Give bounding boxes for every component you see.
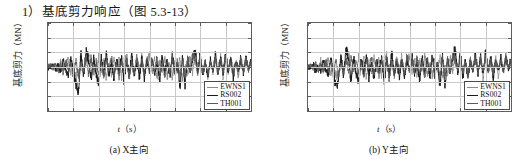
figure-b: 基底剪力（MN） EWNS1 RS002 TH001 <box>259 18 519 167</box>
x-tick-mark <box>460 23 461 26</box>
axes-a: EWNS1 RS002 TH001 0510152025303540−300−2… <box>47 22 252 112</box>
y-tick-mark <box>48 111 51 112</box>
x-tick-mark <box>359 108 360 111</box>
y-tick-mark <box>508 38 511 39</box>
x-tick-mark <box>200 23 201 26</box>
y-tick-mark <box>508 111 511 112</box>
x-axis-unit-a: （s） <box>120 124 142 134</box>
y-tick-mark <box>308 52 311 53</box>
x-tick-mark <box>410 108 411 111</box>
y-axis-label-b: 基底剪力（MN） <box>278 10 291 96</box>
y-tick-mark <box>508 52 511 53</box>
legend-swatch-ewns1 <box>207 87 218 88</box>
x-tick-mark <box>175 108 176 111</box>
gridline-horizontal <box>308 38 511 39</box>
figure-page: 1）基底剪力响应（图 5.3-13） 基底剪力（MN） EWNS1 RS002 <box>0 0 519 167</box>
x-tick-mark <box>175 23 176 26</box>
x-tick-mark <box>251 23 252 26</box>
y-tick-mark <box>308 111 311 112</box>
y-tick-mark <box>248 67 251 68</box>
caption-a: (a) X主向 <box>0 142 259 156</box>
x-tick-mark <box>511 23 512 26</box>
x-tick-mark <box>73 108 74 111</box>
gridline-horizontal <box>48 52 251 53</box>
y-tick-mark <box>248 52 251 53</box>
y-tick-mark <box>508 67 511 68</box>
y-tick-mark <box>48 38 51 39</box>
y-tick-mark <box>48 23 51 24</box>
legend-swatch-th001 <box>467 103 478 104</box>
legend-a: EWNS1 RS002 TH001 <box>204 81 250 110</box>
y-axis-label-a: 基底剪力（MN） <box>11 10 24 96</box>
y-tick-mark <box>308 23 311 24</box>
x-axis-label-b: t（s） <box>259 122 519 135</box>
y-tick-mark <box>308 96 311 97</box>
x-tick-mark <box>460 108 461 111</box>
x-tick-mark <box>251 108 252 111</box>
x-tick-mark <box>435 108 436 111</box>
y-tick-mark <box>248 111 251 112</box>
legend-b: EWNS1 RS002 TH001 <box>464 81 510 110</box>
y-tick-mark <box>48 67 51 68</box>
y-tick-mark <box>508 23 511 24</box>
x-tick-mark <box>73 23 74 26</box>
gridline-horizontal <box>308 52 511 53</box>
x-tick-mark <box>124 108 125 111</box>
x-tick-mark <box>226 23 227 26</box>
x-tick-mark <box>333 23 334 26</box>
y-tick-mark <box>248 38 251 39</box>
plot-b: 基底剪力（MN） EWNS1 RS002 TH001 <box>259 18 519 130</box>
x-tick-mark <box>486 23 487 26</box>
axes-b: EWNS1 RS002 TH001 0510152025303540−300−2… <box>307 22 512 112</box>
y-tick-mark <box>308 82 311 83</box>
x-tick-mark <box>384 108 385 111</box>
y-tick-mark <box>308 67 311 68</box>
legend-swatch-rs002 <box>207 95 218 96</box>
x-axis-label-a: t（s） <box>0 122 259 135</box>
x-tick-mark <box>511 108 512 111</box>
x-tick-mark <box>333 108 334 111</box>
gridline-horizontal <box>308 67 511 68</box>
x-axis-unit-b: （s） <box>380 124 402 134</box>
y-tick-mark <box>48 96 51 97</box>
plot-a: 基底剪力（MN） EWNS1 RS002 TH001 <box>0 18 259 130</box>
legend-swatch-rs002 <box>467 95 478 96</box>
x-tick-mark <box>435 23 436 26</box>
x-tick-mark <box>124 23 125 26</box>
legend-label-th001: TH001 <box>480 100 502 108</box>
y-tick-mark <box>48 52 51 53</box>
x-tick-mark <box>200 108 201 111</box>
x-tick-mark <box>384 23 385 26</box>
figure-a: 基底剪力（MN） EWNS1 RS002 TH001 <box>0 18 259 167</box>
caption-b: (b) Y主向 <box>259 142 519 156</box>
legend-item: TH001 <box>467 100 506 108</box>
x-tick-mark <box>359 23 360 26</box>
legend-item: TH001 <box>207 100 246 108</box>
gridline-horizontal <box>48 67 251 68</box>
y-tick-mark <box>308 38 311 39</box>
x-tick-mark <box>99 108 100 111</box>
x-tick-mark <box>150 108 151 111</box>
legend-label-th001: TH001 <box>220 100 242 108</box>
legend-swatch-th001 <box>207 103 218 104</box>
y-tick-mark <box>248 23 251 24</box>
gridline-horizontal <box>48 38 251 39</box>
x-tick-mark <box>410 23 411 26</box>
x-tick-mark <box>99 23 100 26</box>
x-tick-mark <box>150 23 151 26</box>
y-tick-mark <box>48 82 51 83</box>
legend-swatch-ewns1 <box>467 87 478 88</box>
